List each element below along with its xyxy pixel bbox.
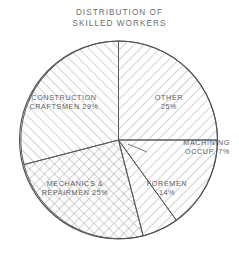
pie-chart-svg	[0, 0, 239, 262]
slice-label-other: OTHER 25%	[137, 94, 201, 111]
slice-label-machining: MACHINING OCCUP. 7%	[144, 139, 230, 156]
slice-label-foremen: FOREMEN 14%	[131, 180, 203, 197]
slice-label-construction: CONSTRUCTION CRAFTSMEN 29%	[14, 94, 114, 111]
slice-label-mechanics: MECHANICS & REPAIRMEN 25%	[23, 180, 127, 197]
pie-slice-other	[119, 41, 218, 140]
pie-chart-figure: DISTRIBUTION OF SKILLED WORKERS	[0, 0, 239, 262]
